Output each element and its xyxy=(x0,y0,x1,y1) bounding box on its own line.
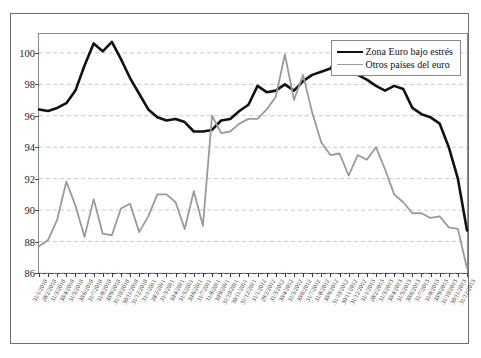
legend-swatch-stressed-icon xyxy=(337,51,363,53)
x-axis-tick xyxy=(367,273,368,277)
legend-item-others: Otros paises del euro xyxy=(337,58,453,71)
x-axis-tick xyxy=(94,273,95,277)
x-axis-tick xyxy=(431,273,432,277)
y-axis-label: 92 xyxy=(25,173,36,184)
y-axis-tick xyxy=(35,147,39,148)
x-axis-tick xyxy=(258,273,259,277)
x-axis-tick xyxy=(148,273,149,277)
x-axis-tick xyxy=(358,273,359,277)
x-axis-tick xyxy=(221,273,222,277)
y-axis-tick xyxy=(35,53,39,54)
x-axis-tick xyxy=(312,273,313,277)
y-axis-tick xyxy=(35,84,39,85)
x-axis-tick xyxy=(176,273,177,277)
chart-legend: Zona Euro bajo estrés Otros paises del e… xyxy=(331,40,461,76)
x-axis-tick xyxy=(330,273,331,277)
y-axis-tick xyxy=(35,242,39,243)
x-axis-tick xyxy=(103,273,104,277)
x-axis-tick xyxy=(412,273,413,277)
chart-plot-area: Zona Euro bajo estrés Otros paises del e… xyxy=(38,33,468,274)
x-axis-tick xyxy=(376,273,377,277)
y-axis-tick xyxy=(35,210,39,211)
x-axis-tick xyxy=(394,273,395,277)
x-axis-tick xyxy=(285,273,286,277)
y-axis-tick xyxy=(35,179,39,180)
x-axis-tick xyxy=(194,273,195,277)
x-axis-tick xyxy=(39,273,40,277)
x-axis-tick xyxy=(230,273,231,277)
x-axis-tick xyxy=(340,273,341,277)
legend-label-stressed: Zona Euro bajo estrés xyxy=(366,46,453,57)
x-axis-tick xyxy=(203,273,204,277)
x-axis-tick xyxy=(75,273,76,277)
x-axis-tick xyxy=(248,273,249,277)
legend-item-stressed: Zona Euro bajo estrés xyxy=(337,45,453,58)
x-axis-tick xyxy=(294,273,295,277)
x-axis-tick xyxy=(66,273,67,277)
x-axis-tick xyxy=(267,273,268,277)
x-axis-tick xyxy=(276,273,277,277)
x-axis-tick xyxy=(403,273,404,277)
x-axis-tick xyxy=(467,273,468,277)
x-axis-tick xyxy=(321,273,322,277)
x-axis-tick xyxy=(57,273,58,277)
x-axis-tick xyxy=(112,273,113,277)
legend-swatch-others-icon xyxy=(337,64,363,65)
x-axis-tick xyxy=(349,273,350,277)
x-axis-tick xyxy=(212,273,213,277)
y-axis-tick xyxy=(35,116,39,117)
legend-label-others: Otros paises del euro xyxy=(366,59,450,70)
x-axis-tick xyxy=(48,273,49,277)
y-axis-label: 98 xyxy=(25,79,36,90)
x-axis-tick xyxy=(139,273,140,277)
x-axis-tick xyxy=(130,273,131,277)
x-axis-tick xyxy=(449,273,450,277)
x-axis-tick xyxy=(440,273,441,277)
x-axis-tick xyxy=(166,273,167,277)
x-axis-tick xyxy=(121,273,122,277)
y-axis-label: 100 xyxy=(19,47,35,58)
y-axis-label: 86 xyxy=(25,268,36,279)
y-axis-label: 90 xyxy=(25,205,36,216)
x-axis-tick xyxy=(421,273,422,277)
y-axis-label: 88 xyxy=(25,236,36,247)
x-axis-tick xyxy=(157,273,158,277)
y-axis-label: 96 xyxy=(25,110,36,121)
x-axis-tick xyxy=(303,273,304,277)
x-axis-tick xyxy=(239,273,240,277)
x-axis-tick xyxy=(385,273,386,277)
x-axis-tick xyxy=(85,273,86,277)
x-axis-tick xyxy=(458,273,459,277)
x-axis-tick xyxy=(185,273,186,277)
y-axis-label: 94 xyxy=(25,142,36,153)
